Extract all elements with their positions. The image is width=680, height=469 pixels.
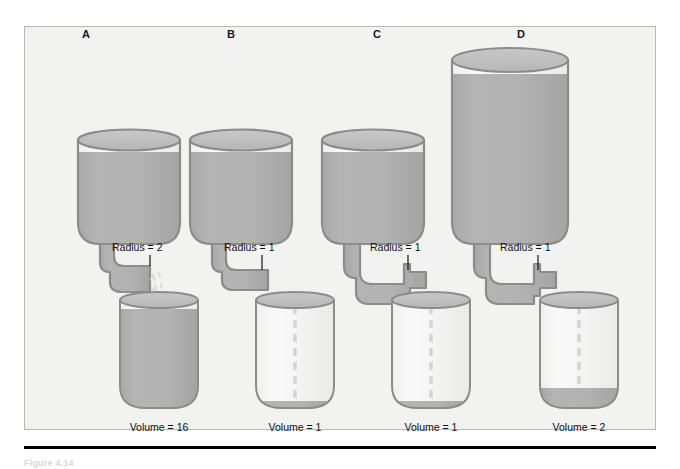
figure-root: A B C D Radius = 2 Radius = 1 Radius = 1… <box>0 0 680 469</box>
column-c-tank-liquid <box>322 152 424 252</box>
column-d-group <box>452 48 618 414</box>
volume-label-c: Volume = 1 <box>405 421 458 433</box>
column-a-cylinder-liquid <box>120 309 198 414</box>
volume-label-d: Volume = 2 <box>553 421 606 433</box>
radius-label-a: Radius = 2 <box>112 241 163 253</box>
column-b-group <box>190 130 334 415</box>
column-c-tank-rim <box>322 130 424 151</box>
column-d-tank-liquid <box>452 74 568 254</box>
column-b-tank-liquid <box>190 152 292 252</box>
column-c-cylinder-rim <box>392 292 470 308</box>
column-d-cylinder-rim <box>540 292 618 308</box>
radius-label-d: Radius = 1 <box>500 241 551 253</box>
column-d-cylinder-liquid <box>540 388 618 414</box>
figure-caption: Figure 4.14 <box>24 458 74 468</box>
column-a-tank-rim <box>78 130 180 151</box>
diagram-canvas <box>0 0 680 469</box>
column-label-c: C <box>357 28 397 40</box>
column-a-group <box>78 130 198 415</box>
column-b-cylinder-rim <box>256 292 334 308</box>
column-label-a: A <box>66 28 106 40</box>
column-a-cylinder-rim <box>120 292 198 308</box>
column-label-b: B <box>211 28 251 40</box>
column-b-tank-rim <box>190 130 292 151</box>
radius-label-b: Radius = 1 <box>224 241 275 253</box>
column-a-tank-liquid <box>78 152 180 252</box>
volume-label-b: Volume = 1 <box>269 421 322 433</box>
figure-bottom-rule <box>24 446 656 449</box>
volume-label-a: Volume = 16 <box>130 421 189 433</box>
column-d-tank-rim <box>452 48 568 72</box>
radius-label-c: Radius = 1 <box>370 241 421 253</box>
column-c-group <box>322 130 470 415</box>
column-label-d: D <box>501 28 541 40</box>
